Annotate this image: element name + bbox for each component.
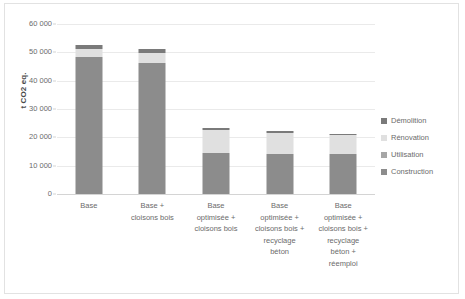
bar-group[interactable] [57,24,121,194]
legend-swatch-icon [381,135,387,141]
chart-legend: DémolitionRénovationUtilisationConstruct… [381,112,461,180]
y-axis-tick-label: 60 000 [29,20,52,28]
x-axis-line [57,194,375,195]
legend-swatch-icon [381,118,387,124]
plot-area: 010 00020 00030 00040 00050 00060 000 [57,24,375,194]
y-axis-tick-label: 20 000 [29,134,52,142]
bar-segment-rnovation[interactable] [202,130,229,153]
y-axis-title: t CO2 eq. [19,51,28,131]
bar-group[interactable] [311,24,375,194]
stacked-bar[interactable] [330,134,357,194]
x-axis-category-label: Base [57,200,121,212]
legend-label: Rénovation [391,133,429,142]
bar-group[interactable] [184,24,248,194]
bar-segment-construction[interactable] [75,57,102,194]
chart-container: t CO2 eq. 010 00020 00030 00040 00050 00… [4,3,459,294]
x-axis-category-label: Base optimisée + cloisons bois + recycla… [311,200,375,270]
x-axis-category-label: Base + cloisons bois [121,200,185,223]
y-axis-tick-mark [53,137,56,138]
y-axis-tick-label: 10 000 [29,162,52,170]
x-axis-labels: BaseBase + cloisons boisBase optimisée +… [57,200,375,295]
bar-segment-rnovation[interactable] [139,53,166,63]
stacked-bar[interactable] [139,49,166,194]
y-axis-tick-label: 0 [48,190,52,198]
bar-segment-construction[interactable] [266,154,293,194]
bar-segment-rnovation[interactable] [266,133,293,154]
y-axis-tick-label: 30 000 [29,105,52,113]
bar-segment-rnovation[interactable] [330,135,357,154]
stacked-bar[interactable] [266,131,293,194]
legend-swatch-icon [381,169,387,175]
y-axis-tick-label: 40 000 [29,77,52,85]
bar-group[interactable] [248,24,312,194]
legend-swatch-icon [381,152,387,158]
x-axis-category-label: Base optimisée + cloisons bois + recycla… [248,200,312,258]
y-axis-tick-mark [53,194,56,195]
stacked-bar[interactable] [202,128,229,194]
y-axis-tick-mark [53,24,56,25]
legend-label: Utilisation [391,150,424,159]
legend-item[interactable]: Démolition [381,112,461,129]
legend-item[interactable]: Utilisation [381,146,461,163]
legend-label: Démolition [391,116,426,125]
y-axis-tick-label: 50 000 [29,49,52,57]
bar-segment-rnovation[interactable] [75,49,102,58]
bar-segment-construction[interactable] [139,63,166,194]
x-axis-category-label: Base optimisée + cloisons bois [184,200,248,235]
stacked-bar[interactable] [75,45,102,194]
bar-segment-construction[interactable] [330,154,357,194]
legend-item[interactable]: Rénovation [381,129,461,146]
y-axis-tick-mark [53,109,56,110]
y-axis-tick-mark [53,165,56,166]
legend-label: Construction [391,167,433,176]
y-axis-tick-mark [53,80,56,81]
bar-group[interactable] [121,24,185,194]
bar-segment-construction[interactable] [202,153,229,194]
legend-item[interactable]: Construction [381,163,461,180]
y-axis-tick-mark [53,52,56,53]
